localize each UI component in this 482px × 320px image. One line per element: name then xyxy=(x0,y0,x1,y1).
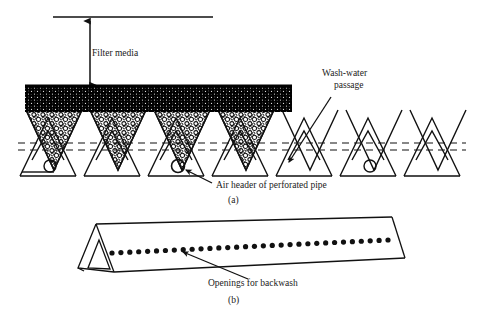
backwash-opening xyxy=(163,248,168,253)
prism-right-end-edge xyxy=(392,217,405,258)
prism-top-ridge xyxy=(96,217,392,224)
backwash-opening xyxy=(225,245,230,250)
backwash-opening xyxy=(368,238,373,243)
backwash-opening xyxy=(252,244,257,249)
backwash-opening xyxy=(305,241,310,246)
underdrain-figure-svg: Filter media xyxy=(0,0,482,320)
backwash-opening xyxy=(359,239,364,244)
backwash-opening xyxy=(385,237,390,242)
panel-a-caption: (a) xyxy=(228,195,239,206)
backwash-opening xyxy=(350,239,355,244)
backwash-opening xyxy=(296,242,301,247)
backwash-opening xyxy=(261,243,266,248)
prism-front-left-edge xyxy=(96,224,114,272)
backwash-opening xyxy=(314,241,319,246)
backwash-opening xyxy=(270,243,275,248)
backwash-opening xyxy=(377,238,382,243)
backwash-opening xyxy=(207,246,212,251)
prism-inner-cavity xyxy=(88,240,110,269)
filter-media-band xyxy=(25,85,292,112)
filter-media-label: Filter media xyxy=(92,48,139,58)
filter-media-sand xyxy=(25,85,292,112)
backwash-opening xyxy=(341,240,346,245)
peak-block-7 xyxy=(404,118,460,176)
wash-water-label-line2: passage xyxy=(334,80,364,90)
backwash-opening xyxy=(154,248,159,253)
backwash-opening xyxy=(323,240,328,245)
peak-block-6 xyxy=(340,118,396,176)
backwash-opening xyxy=(198,246,203,251)
backwash-opening xyxy=(243,244,248,249)
peak-block-5 xyxy=(276,118,332,176)
backwash-opening xyxy=(332,240,337,245)
backwash-opening xyxy=(127,250,132,255)
backwash-opening xyxy=(136,249,141,254)
backwash-opening xyxy=(216,245,221,250)
panel-b: Openings for backwash (b) xyxy=(78,217,405,306)
gravel-trough-4 xyxy=(218,110,274,170)
gravel-filled-troughs xyxy=(26,110,274,170)
backwash-opening xyxy=(145,249,150,254)
backwash-openings-row xyxy=(109,237,390,255)
backwash-opening xyxy=(190,247,195,252)
backwash-opening xyxy=(234,245,239,250)
wash-water-leader-arrow xyxy=(289,97,331,162)
backwash-opening xyxy=(279,242,284,247)
backwash-opening xyxy=(172,247,177,252)
backwash-opening xyxy=(118,250,123,255)
openings-label: Openings for backwash xyxy=(208,278,298,288)
air-header-label: Air header of perforated pipe xyxy=(216,180,327,190)
panel-a: Filter media xyxy=(18,17,466,206)
gravel-trough-2 xyxy=(90,110,146,170)
figure-container: Filter media xyxy=(0,0,482,320)
flume-v-7 xyxy=(410,110,466,170)
backwash-opening xyxy=(287,242,292,247)
backwash-opening xyxy=(109,250,114,255)
prism-front-bottom-edge xyxy=(114,258,405,272)
panel-b-caption: (b) xyxy=(228,295,239,306)
wash-water-label-line1: Wash-water xyxy=(322,68,368,78)
